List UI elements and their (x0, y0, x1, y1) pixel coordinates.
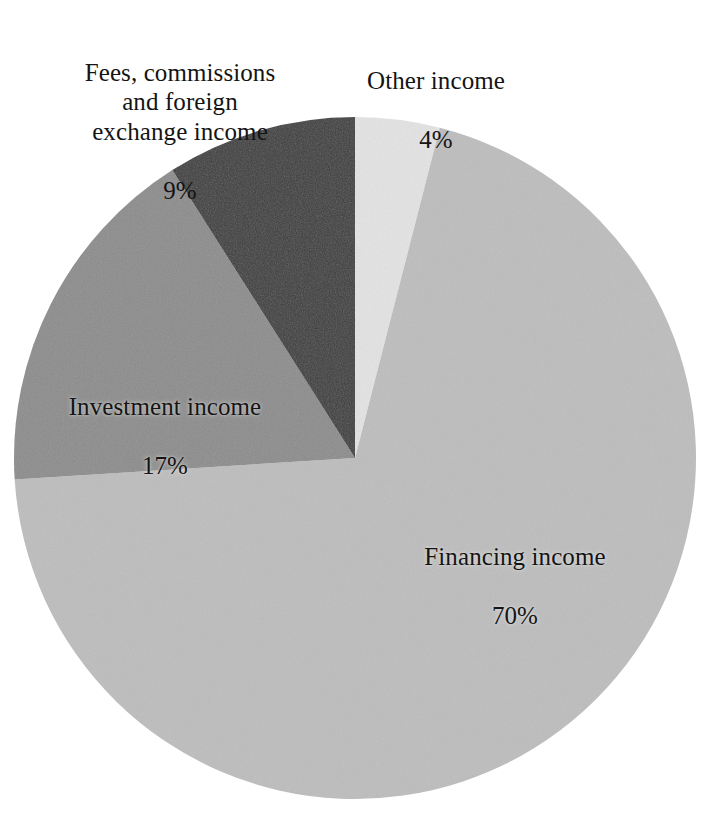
pie-label-other-text: Other income (316, 66, 556, 96)
pie-chart-figure: Fees, commissions and foreign exchange i… (0, 0, 712, 830)
pie-label-fees-value: 9% (46, 176, 314, 206)
pie-label-financing-value: 70% (390, 601, 640, 631)
pie-label-investment-text: Investment income (42, 392, 288, 422)
pie-label-investment-income: Investment income 17% (42, 362, 288, 510)
pie-label-investment-value: 17% (42, 451, 288, 481)
pie-label-financing-text: Financing income (390, 542, 640, 572)
pie-label-financing-income: Financing income 70% (390, 512, 640, 660)
pie-label-fees-commissions-fx-income: Fees, commissions and foreign exchange i… (46, 28, 314, 235)
pie-label-other-value: 4% (316, 125, 556, 155)
pie-label-fees-text: Fees, commissions and foreign exchange i… (46, 58, 314, 147)
pie-label-other-income: Other income 4% (316, 36, 556, 184)
